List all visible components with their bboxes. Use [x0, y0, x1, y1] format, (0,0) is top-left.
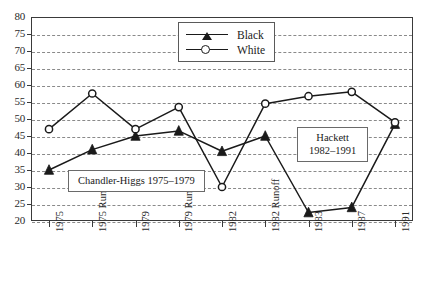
data-point-marker-open-circle-icon: [262, 100, 269, 107]
legend-entry-white: White: [186, 42, 265, 57]
data-point-marker-open-circle-icon: [305, 93, 312, 100]
data-point-marker-filled-triangle-icon: [174, 126, 183, 136]
legend-label-white: White: [237, 44, 265, 56]
legend-label-black: Black: [237, 29, 264, 41]
annotation-hackett-line1: Hackett: [309, 132, 356, 145]
data-point-marker-open-circle-icon: [391, 119, 398, 126]
annotation-hackett: Hackett 1982–1991: [297, 127, 368, 162]
legend-entry-black: Black: [186, 27, 265, 42]
annotation-chandler-higgs: Chandler-Higgs 1975–1979: [68, 170, 205, 192]
legend-marker-filled-triangle-icon: [186, 29, 228, 41]
data-point-marker-open-circle-icon: [348, 88, 355, 95]
annotation-chandler-higgs-line1: Chandler-Higgs 1975–1979: [78, 175, 195, 188]
data-point-marker-filled-triangle-icon: [347, 202, 356, 212]
annotation-hackett-line2: 1982–1991: [309, 145, 356, 158]
data-point-marker-filled-triangle-icon: [44, 165, 53, 175]
data-point-marker-filled-triangle-icon: [261, 131, 270, 141]
data-point-marker-open-circle-icon: [218, 183, 225, 190]
data-point-marker-open-circle-icon: [45, 126, 52, 133]
data-point-marker-open-circle-icon: [132, 126, 139, 133]
legend-marker-open-circle-icon: [186, 44, 228, 56]
line-chart: 80757065605550454035302520 19751975 Runo…: [0, 0, 422, 291]
data-point-marker-open-circle-icon: [175, 104, 182, 111]
legend: Black White: [178, 22, 275, 62]
data-point-marker-open-circle-icon: [89, 90, 96, 97]
